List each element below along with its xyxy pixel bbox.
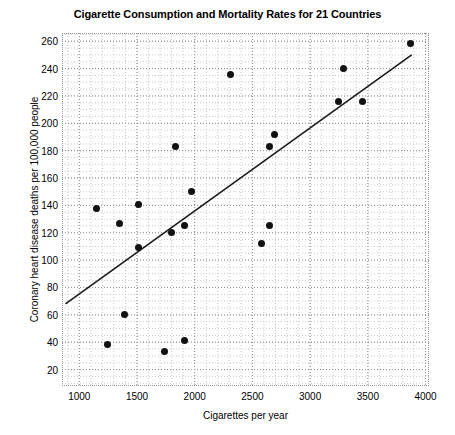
data-point <box>121 311 128 318</box>
data-point <box>266 222 273 229</box>
y-tick-label: 200 <box>18 118 58 129</box>
y-axis-tick-labels: 20406080100120140160180200220240260 <box>12 33 58 386</box>
x-tick-label: 3000 <box>280 391 340 402</box>
data-point <box>93 205 100 212</box>
data-point <box>104 341 111 348</box>
data-point <box>359 98 366 105</box>
x-tick-label: 3500 <box>338 391 398 402</box>
chart-figure: Cigarette Consumption and Mortality Rate… <box>0 0 455 435</box>
plot-area <box>62 33 429 386</box>
x-tick-label: 1500 <box>107 391 167 402</box>
data-point <box>271 131 278 138</box>
y-tick-label: 100 <box>18 255 58 266</box>
y-tick-label: 20 <box>18 364 58 375</box>
data-point <box>227 71 234 78</box>
data-point <box>340 65 347 72</box>
y-tick-label: 240 <box>18 63 58 74</box>
y-tick-label: 180 <box>18 145 58 156</box>
data-point <box>188 188 195 195</box>
x-tick-label: 2000 <box>165 391 225 402</box>
chart-title: Cigarette Consumption and Mortality Rate… <box>0 8 455 20</box>
data-point <box>135 201 142 208</box>
y-tick-label: 140 <box>18 200 58 211</box>
data-point <box>258 240 265 247</box>
data-point <box>116 220 123 227</box>
y-tick-label: 220 <box>18 90 58 101</box>
data-point <box>335 98 342 105</box>
scatter-points <box>62 33 429 386</box>
x-tick-label: 2500 <box>222 391 282 402</box>
data-point <box>181 337 188 344</box>
y-tick-label: 40 <box>18 337 58 348</box>
data-point <box>172 143 179 150</box>
y-tick-label: 60 <box>18 309 58 320</box>
x-tick-label: 4000 <box>396 391 455 402</box>
data-point <box>135 244 142 251</box>
data-point <box>181 222 188 229</box>
y-tick-label: 260 <box>18 36 58 47</box>
data-point <box>161 348 168 355</box>
x-tick-label: 1000 <box>49 391 109 402</box>
x-axis-label: Cigarettes per year <box>62 410 429 421</box>
data-point <box>407 40 414 47</box>
data-point <box>168 229 175 236</box>
data-point <box>266 143 273 150</box>
y-tick-label: 120 <box>18 227 58 238</box>
y-tick-label: 80 <box>18 282 58 293</box>
y-tick-label: 160 <box>18 173 58 184</box>
x-axis-tick-labels: 1000150020002500300035004000 <box>62 391 429 407</box>
